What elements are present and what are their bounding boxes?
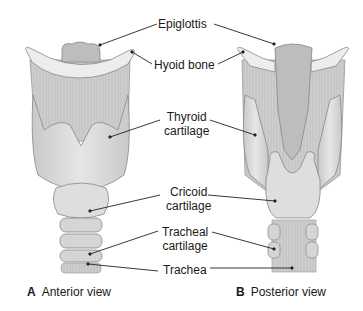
label-thyroid-line1: Thyroid — [164, 110, 209, 124]
epiglottis-anterior — [62, 42, 100, 62]
larynx-diagram: Epiglottis Hyoid bone Thyroid cartilage … — [0, 0, 363, 311]
label-tracheal-cartilage: Tracheal cartilage — [162, 225, 208, 253]
label-cricoid-line1: Cricoid — [166, 185, 211, 199]
label-tracheal-line2: cartilage — [162, 239, 208, 253]
label-cricoid-cartilage: Cricoid cartilage — [166, 185, 211, 213]
caption-text-a: Anterior view — [42, 285, 111, 299]
label-hyoid-bone: Hyoid bone — [154, 58, 215, 72]
posterior-view — [238, 44, 349, 272]
caption-letter-b: B — [236, 285, 245, 299]
caption-anterior: AAnterior view — [27, 285, 111, 299]
label-trachea: Trachea — [163, 263, 207, 277]
label-thyroid-line2: cartilage — [164, 124, 209, 138]
cricoid-anterior — [53, 183, 108, 218]
label-tracheal-line1: Tracheal — [162, 225, 208, 239]
caption-posterior: BPosterior view — [236, 285, 326, 299]
label-cricoid-line2: cartilage — [166, 199, 211, 213]
caption-text-b: Posterior view — [251, 285, 326, 299]
label-epiglottis: Epiglottis — [158, 17, 207, 31]
anterior-view — [26, 42, 135, 273]
caption-letter-a: A — [27, 285, 36, 299]
label-thyroid-cartilage: Thyroid cartilage — [164, 110, 209, 138]
